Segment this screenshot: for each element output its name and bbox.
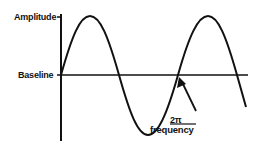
arrow-shaft (182, 82, 196, 111)
baseline-label: Baseline (18, 70, 53, 80)
period-denominator: frequency (150, 124, 194, 135)
amplitude-label: Amplitude (14, 12, 56, 22)
